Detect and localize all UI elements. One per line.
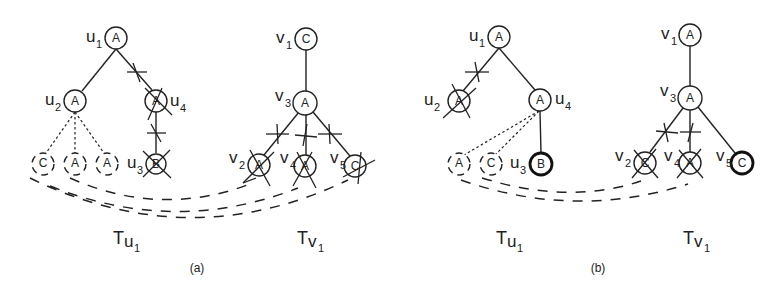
svg-text:2: 2 xyxy=(55,101,61,113)
svg-text:5: 5 xyxy=(726,157,732,169)
svg-text:4: 4 xyxy=(290,159,296,171)
node-v1: A v 1 xyxy=(661,24,701,47)
svg-text:u: u xyxy=(510,153,519,172)
edge-u1-u2 xyxy=(82,49,116,91)
svg-text:T: T xyxy=(297,228,308,248)
node-v4: A v 4 xyxy=(664,146,703,178)
edge-u4-leaf xyxy=(464,111,539,155)
tree-title-tu1: T u 1 xyxy=(113,228,140,254)
svg-text:A: A xyxy=(536,93,544,107)
svg-text:3: 3 xyxy=(520,164,526,176)
svg-text:3: 3 xyxy=(285,97,291,109)
node-leaf-dashed: A xyxy=(96,153,118,175)
svg-text:A: A xyxy=(71,156,79,170)
caption-b: (b) xyxy=(591,261,606,275)
svg-text:v: v xyxy=(660,81,669,100)
svg-text:1: 1 xyxy=(286,39,292,51)
svg-text:v: v xyxy=(716,146,725,165)
svg-text:A: A xyxy=(71,94,79,108)
svg-text:v: v xyxy=(275,86,284,105)
svg-text:B: B xyxy=(537,157,545,171)
matching-curves-b xyxy=(461,178,688,201)
svg-text:v: v xyxy=(661,24,670,43)
svg-text:1: 1 xyxy=(704,242,710,254)
node-u1: A u 1 xyxy=(86,27,127,50)
svg-text:4: 4 xyxy=(565,100,571,112)
svg-text:4: 4 xyxy=(674,157,680,169)
svg-text:v: v xyxy=(229,148,238,167)
svg-text:u: u xyxy=(170,91,179,110)
node-leaf-dashed: C xyxy=(32,153,54,175)
svg-text:v: v xyxy=(330,148,339,167)
svg-text:3: 3 xyxy=(137,164,143,176)
edge-u1-u4 xyxy=(116,49,152,90)
svg-text:u: u xyxy=(124,232,133,251)
diagram-svg: A u 1 A u 2 A u 4 B u 3 C xyxy=(0,0,779,298)
svg-text:u: u xyxy=(507,232,516,251)
edge-u2-leaf xyxy=(46,112,75,153)
svg-text:1: 1 xyxy=(134,242,140,254)
caption-a: (a) xyxy=(190,261,205,275)
node-leaf-dashed: C xyxy=(480,153,502,175)
cut-mark-icon xyxy=(266,124,289,144)
node-v1: C v 1 xyxy=(276,28,317,51)
node-leaf-dashed: A xyxy=(64,153,86,175)
node-u2: A u 2 xyxy=(424,84,476,118)
tree-title-tu1: T u 1 xyxy=(496,228,523,254)
svg-text:T: T xyxy=(496,228,507,248)
svg-text:u: u xyxy=(469,26,478,45)
edge-u1-u2 xyxy=(463,48,499,91)
svg-text:A: A xyxy=(686,28,694,42)
svg-text:2: 2 xyxy=(625,157,631,169)
svg-text:1: 1 xyxy=(517,242,523,254)
edge-u4-u3 xyxy=(540,111,541,153)
node-u3: B u 3 xyxy=(127,150,171,178)
svg-text:1: 1 xyxy=(479,37,485,49)
svg-text:v: v xyxy=(280,148,289,167)
edge-u2-leaf xyxy=(75,112,104,153)
node-v5: C v 5 xyxy=(330,148,375,184)
node-u3: B u 3 xyxy=(510,153,552,176)
svg-text:u: u xyxy=(424,90,433,109)
node-leaf-dashed: A xyxy=(448,153,470,175)
node-v3: A v 3 xyxy=(660,81,702,110)
node-v3: A v 3 xyxy=(275,86,317,115)
match-curve xyxy=(70,178,250,200)
panel-a: A u 1 A u 2 A u 4 B u 3 C xyxy=(30,27,375,275)
edge-u4-leaf xyxy=(495,111,539,155)
svg-text:C: C xyxy=(302,32,311,46)
svg-text:2: 2 xyxy=(434,101,440,113)
svg-text:C: C xyxy=(487,156,496,170)
svg-text:v: v xyxy=(694,232,703,251)
svg-text:3: 3 xyxy=(670,92,676,104)
svg-text:1: 1 xyxy=(318,242,324,254)
svg-text:A: A xyxy=(112,31,120,45)
svg-text:u: u xyxy=(555,89,564,108)
svg-text:1: 1 xyxy=(96,38,102,50)
edge-u1-u4 xyxy=(499,48,535,90)
node-v4: A v 4 xyxy=(280,148,316,188)
svg-text:u: u xyxy=(86,27,95,46)
node-v2: A v 2 xyxy=(229,148,274,186)
svg-text:A: A xyxy=(495,30,503,44)
svg-text:5: 5 xyxy=(340,159,346,171)
svg-text:2: 2 xyxy=(239,159,245,171)
node-u4: A u 4 xyxy=(529,89,571,112)
svg-text:u: u xyxy=(127,153,136,172)
svg-text:1: 1 xyxy=(671,35,677,47)
node-u4: A u 4 xyxy=(145,88,186,120)
node-u1: A u 1 xyxy=(469,26,510,49)
node-u2: A u 2 xyxy=(45,90,86,113)
svg-text:u: u xyxy=(45,90,54,109)
tree-matching-figure: A u 1 A u 2 A u 4 B u 3 C xyxy=(0,0,779,298)
svg-text:v: v xyxy=(276,28,285,47)
cut-mark-icon xyxy=(318,124,342,144)
svg-text:T: T xyxy=(683,228,694,248)
svg-text:4: 4 xyxy=(180,102,186,114)
svg-text:A: A xyxy=(301,96,309,110)
svg-text:v: v xyxy=(615,146,624,165)
match-curve xyxy=(461,180,688,201)
tree-title-tv1: T v 1 xyxy=(297,228,324,254)
matching-curves-a xyxy=(30,178,348,218)
svg-text:A: A xyxy=(455,156,463,170)
